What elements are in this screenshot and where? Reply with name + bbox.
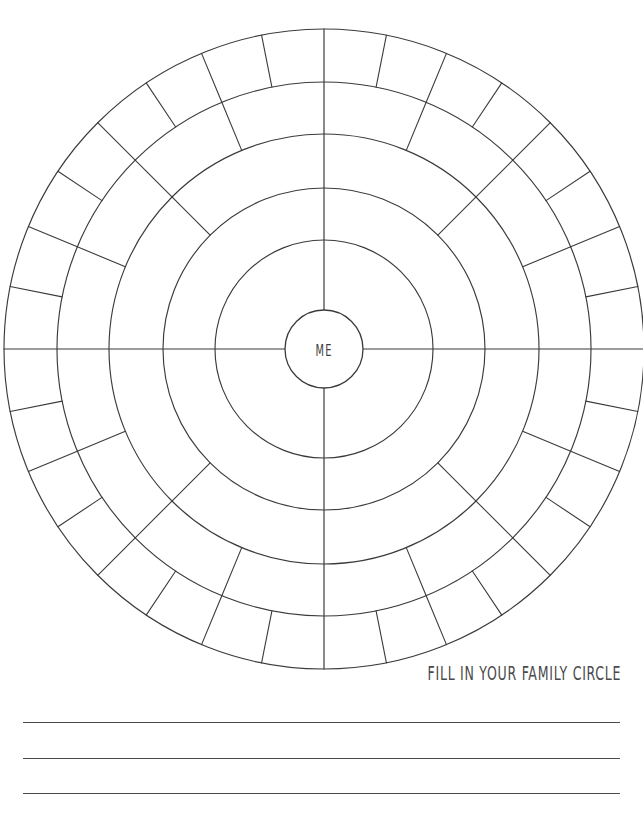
family-circle-worksheet: ME FILL IN YOUR FAMILY CIRCLE — [0, 0, 643, 815]
ring-spoke — [571, 451, 620, 471]
ring-spoke — [146, 571, 175, 615]
ring-spoke — [98, 538, 135, 575]
ring-spoke — [571, 227, 620, 247]
ring-spoke — [135, 501, 172, 538]
ring-spoke — [262, 35, 272, 87]
ring-spoke — [58, 171, 102, 200]
ring-spoke — [98, 123, 135, 160]
ring-spoke — [523, 431, 571, 451]
worksheet-caption: FILL IN YOUR FAMILY CIRCLE — [427, 661, 621, 685]
ring-spoke — [426, 596, 446, 645]
ring-spoke — [476, 160, 513, 197]
ring-spoke — [262, 611, 272, 663]
ring-spoke — [58, 497, 102, 526]
ring-spoke — [172, 463, 210, 501]
ring-spoke — [472, 83, 501, 127]
ring-spoke — [513, 538, 550, 575]
ring-spoke — [376, 611, 386, 663]
ring-spoke — [77, 431, 125, 451]
ring-spoke — [406, 548, 426, 596]
ring-spoke — [406, 102, 426, 150]
ring-spoke — [146, 83, 175, 127]
center-me-circle — [285, 310, 363, 388]
ring-spoke — [438, 463, 476, 501]
ring-spoke — [476, 501, 513, 538]
ring-spoke — [426, 53, 446, 102]
ring-spoke — [77, 247, 125, 267]
ring-spoke — [438, 197, 476, 235]
ring-spoke — [586, 401, 638, 411]
ring-spoke — [513, 123, 550, 160]
ring-spoke — [28, 451, 77, 471]
ring-spoke — [222, 548, 242, 596]
ring-spoke — [28, 227, 77, 247]
family-circle-diagram[interactable] — [0, 0, 643, 815]
ring-spoke — [202, 596, 222, 645]
ring-spoke — [135, 160, 172, 197]
ring-spoke — [222, 102, 242, 150]
ring-spoke — [202, 53, 222, 102]
ring-spoke — [376, 35, 386, 87]
ring-spoke — [546, 497, 590, 526]
ring-spoke — [472, 571, 501, 615]
ring-spoke — [546, 171, 590, 200]
ring-spoke — [10, 287, 62, 297]
ring-spoke — [523, 247, 571, 267]
ring-spoke — [10, 401, 62, 411]
ring-spoke — [172, 197, 210, 235]
ring-spoke — [586, 287, 638, 297]
